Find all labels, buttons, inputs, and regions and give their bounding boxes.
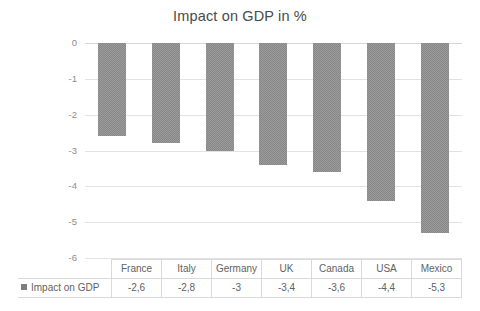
table-column-header: UK	[262, 260, 312, 279]
bar-france	[98, 43, 126, 136]
gridline--5	[85, 222, 462, 223]
gridline--4	[85, 186, 462, 187]
y-axis-tick-label: -5	[51, 217, 77, 227]
table-column-header: Canada	[312, 260, 362, 279]
bar-chart: Impact on GDP in % 0-1-2-3-4-5-6 FranceI…	[0, 0, 480, 311]
y-axis-tick-label: -2	[51, 110, 77, 120]
table-header-row: FranceItalyGermanyUKCanadaUSAMexico	[18, 260, 462, 279]
table-cell-value: -5,3	[412, 279, 462, 298]
bar-germany	[206, 43, 234, 151]
table-cell-value: -2,6	[112, 279, 162, 298]
plot-area	[85, 43, 462, 258]
y-axis-tick-label: 0	[51, 38, 77, 48]
chart-title: Impact on GDP in %	[0, 8, 480, 24]
table-cell-value: -3,6	[312, 279, 362, 298]
bar-uk	[259, 43, 287, 165]
legend-swatch-icon	[21, 284, 27, 290]
bar-italy	[152, 43, 180, 143]
y-axis-tick-label: -3	[51, 146, 77, 156]
y-axis-tick-label: -1	[51, 74, 77, 84]
data-table: FranceItalyGermanyUKCanadaUSAMexico Impa…	[18, 259, 462, 298]
table-corner-cell	[18, 260, 112, 279]
table-cell-value: -3,4	[262, 279, 312, 298]
table-row: Impact on GDP -2,6-2,8-3-3,4-3,6-4,4-5,3	[18, 279, 462, 298]
table-cell-value: -4,4	[362, 279, 412, 298]
table-cell-value: -3	[212, 279, 262, 298]
table-column-header: France	[112, 260, 162, 279]
legend-entry: Impact on GDP	[18, 279, 112, 298]
table-cell-value: -2,8	[162, 279, 212, 298]
table-column-header: Mexico	[412, 260, 462, 279]
bar-usa	[367, 43, 395, 201]
bar-mexico	[421, 43, 449, 233]
table-column-header: Germany	[212, 260, 262, 279]
y-axis-tick-label: -4	[51, 181, 77, 191]
bar-canada	[313, 43, 341, 172]
legend-label: Impact on GDP	[31, 282, 99, 293]
table-column-header: USA	[362, 260, 412, 279]
table-column-header: Italy	[162, 260, 212, 279]
